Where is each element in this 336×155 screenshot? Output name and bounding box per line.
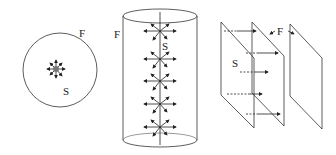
- plane-surface-label: F: [277, 25, 283, 37]
- charged-plane: [252, 22, 284, 126]
- spherical-surface: [23, 33, 97, 107]
- cylinder-charge-label: S: [162, 40, 168, 52]
- cylinder-panel: [123, 9, 197, 147]
- sphere-panel: F S: [23, 27, 97, 107]
- left-gaussian-plane: [221, 22, 254, 128]
- plane-charge-label: S: [232, 57, 238, 69]
- point-charge: [53, 66, 59, 72]
- plane-field-arrows: [224, 31, 294, 114]
- cylinder-surface-label: F: [114, 28, 120, 40]
- sphere-surface-label: F: [79, 27, 85, 39]
- plane-panel: [221, 22, 322, 129]
- right-gaussian-plane: [290, 24, 322, 129]
- gauss-law-diagram: F S: [0, 0, 336, 155]
- sphere-charge-label: S: [63, 85, 69, 97]
